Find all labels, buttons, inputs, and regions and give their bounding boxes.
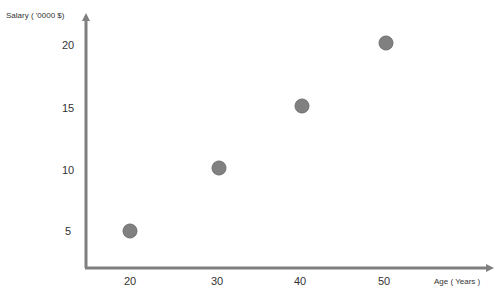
x-axis-arrow-icon bbox=[486, 264, 494, 272]
y-tick-15: 15 bbox=[62, 102, 74, 114]
y-tick-20: 20 bbox=[62, 39, 74, 51]
data-point bbox=[212, 161, 226, 175]
y-tick-10: 10 bbox=[62, 164, 74, 176]
data-point bbox=[295, 99, 309, 113]
y-axis-label: Salary ( '0000 $) bbox=[6, 11, 65, 20]
data-point bbox=[379, 36, 393, 50]
scatter-chart: Salary ( '0000 $) Age ( Years ) 20 15 10… bbox=[0, 0, 502, 301]
data-point bbox=[123, 224, 137, 238]
x-tick-50: 50 bbox=[378, 275, 390, 287]
x-tick-40: 40 bbox=[294, 275, 306, 287]
x-tick-20: 20 bbox=[124, 275, 136, 287]
y-axis-arrow-icon bbox=[82, 13, 90, 21]
x-tick-30: 30 bbox=[211, 275, 223, 287]
x-axis-label: Age ( Years ) bbox=[434, 277, 481, 286]
y-tick-5: 5 bbox=[65, 225, 71, 237]
